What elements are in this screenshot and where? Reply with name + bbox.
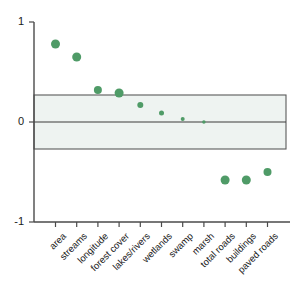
data-point (181, 117, 185, 121)
data-point (264, 168, 272, 176)
data-point (94, 86, 102, 94)
data-point (221, 176, 230, 185)
scatter-chart: 1 0 -1 areastreamslongitudeforest coverl… (0, 0, 299, 293)
data-point (72, 53, 81, 62)
data-point (51, 40, 60, 49)
x-tick-group (56, 222, 268, 227)
data-point (242, 176, 251, 185)
y-tick-label-top: 1 (2, 16, 24, 27)
data-point (137, 102, 143, 108)
y-tick-label-bottom: -1 (2, 216, 24, 227)
data-point (115, 89, 124, 98)
data-point (159, 111, 164, 116)
data-point (202, 120, 206, 124)
y-tick-label-mid: 0 (2, 116, 24, 127)
